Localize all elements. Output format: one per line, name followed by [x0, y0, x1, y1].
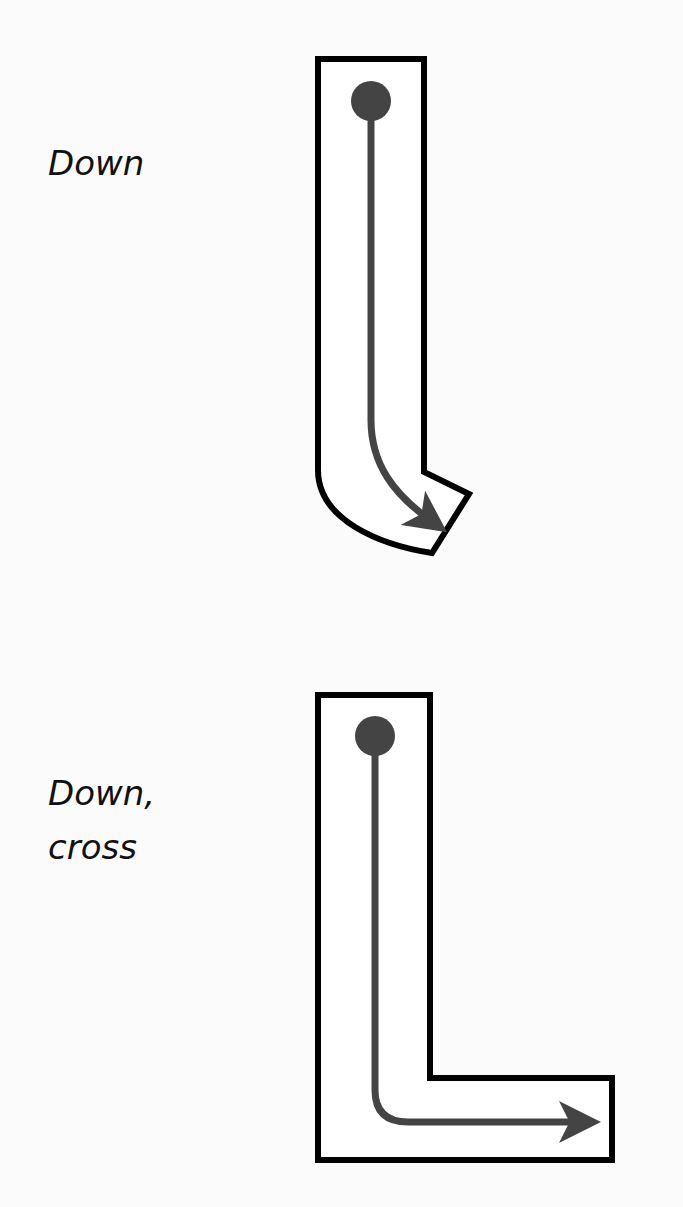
j-hook-outline [318, 59, 469, 553]
gesture-down-shape [318, 59, 469, 553]
l-shape-outline [318, 695, 612, 1160]
gesture-down-cross-shape [318, 695, 612, 1160]
gesture-diagrams [0, 0, 683, 1207]
